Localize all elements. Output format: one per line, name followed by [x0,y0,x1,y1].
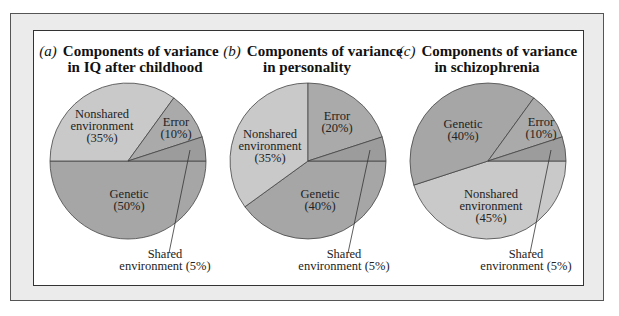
label-shared: environment (5%) [119,259,210,273]
panel-a: (a)Components of variance in IQ after ch… [39,43,219,273]
panel-b-title-line1: (b)Components of variance [223,43,403,60]
panel-b-title-line2: in personality [263,59,351,75]
panel-a-title-line2: in IQ after childhood [67,59,203,75]
panel-a-title-line1: (a)Components of variance [39,43,219,60]
label-error: (20%) [321,121,352,135]
label-error: (10%) [525,127,556,141]
label-nonshared: (35%) [254,151,285,165]
pie-charts: (a)Components of variance in IQ after ch… [0,0,619,316]
panel-c-title-line1: (c)Components of variance [399,43,578,60]
panel-c-title-line2: in schizophrenia [434,59,540,75]
panel-c: (c)Components of variance in schizophren… [399,43,578,273]
label-genetic: (40%) [447,129,478,143]
label-shared: environment (5%) [480,259,571,273]
label-genetic: (40%) [304,199,335,213]
label-nonshared: (45%) [475,211,506,225]
label-genetic: (50%) [113,199,144,213]
label-nonshared: (35%) [86,131,117,145]
panel-b: (b)Components of variance in personality… [223,43,403,273]
label-error: (10%) [160,127,191,141]
label-shared: environment (5%) [298,259,389,273]
